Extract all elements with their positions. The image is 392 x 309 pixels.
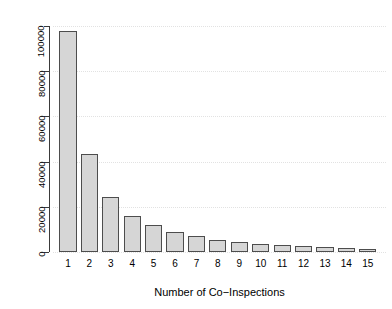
- x-axis-tick-label: 8: [206, 258, 230, 269]
- bar: [81, 154, 98, 252]
- x-axis-tick-label: 10: [249, 258, 273, 269]
- y-axis-tick-label: 60000: [36, 116, 47, 142]
- bar: [59, 31, 76, 252]
- gridline: [53, 162, 386, 163]
- gridline: [53, 26, 386, 27]
- bar: [252, 244, 269, 252]
- x-axis-tick-label: 5: [142, 258, 166, 269]
- y-axis-line: [49, 26, 50, 252]
- bar: [231, 242, 248, 252]
- gridline: [53, 252, 386, 253]
- y-axis-tick-label: 100000: [36, 26, 47, 58]
- x-axis-title: Number of Co−Inspections: [53, 286, 386, 298]
- bar: [102, 197, 119, 252]
- x-axis-tick-label: 1: [56, 258, 80, 269]
- gridline: [53, 71, 386, 72]
- x-axis-tick-label: 11: [270, 258, 294, 269]
- x-axis-tick-label: 14: [334, 258, 358, 269]
- bar: [338, 248, 355, 252]
- x-axis-tick-label: 7: [184, 258, 208, 269]
- y-axis-tick-label: 20000: [36, 206, 47, 232]
- y-axis-title: Number of Documents: [10, 252, 24, 309]
- y-axis-tick-label: 80000: [36, 71, 47, 97]
- x-axis-tick-label: 3: [99, 258, 123, 269]
- x-axis-tick-label: 15: [356, 258, 380, 269]
- bar: [145, 225, 162, 252]
- y-axis-tick-label: 40000: [36, 161, 47, 187]
- x-axis-tick-label: 2: [77, 258, 101, 269]
- y-axis-tick-label: 0: [36, 252, 47, 257]
- bar: [359, 249, 376, 252]
- gridline: [53, 116, 386, 117]
- x-axis-tick-label: 12: [292, 258, 316, 269]
- x-axis-tick-label: 6: [163, 258, 187, 269]
- bar-chart-figure: Number of Documents 02000040000600008000…: [0, 0, 392, 309]
- x-axis-tick-label: 4: [120, 258, 144, 269]
- plot-area: [53, 26, 386, 252]
- bar: [316, 247, 333, 252]
- bar: [295, 246, 312, 252]
- bar: [209, 240, 226, 252]
- bar: [274, 245, 291, 252]
- bar: [166, 232, 183, 252]
- x-axis-tick-label: 13: [313, 258, 337, 269]
- bar: [188, 236, 205, 252]
- bar: [124, 216, 141, 252]
- x-axis-tick-label: 9: [227, 258, 251, 269]
